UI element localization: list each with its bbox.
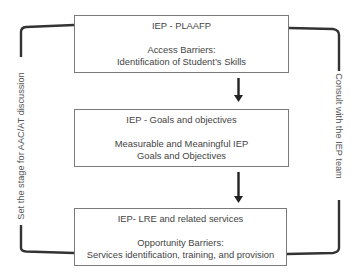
box-body: Access Barriers: Identification of Stude…: [75, 44, 288, 68]
box-title: IEP- LRE and related services: [75, 213, 286, 225]
box-body-line: Services identification, training, and p…: [75, 249, 286, 261]
right-bracket-bottom: [287, 200, 339, 254]
left-bracket-top: [21, 25, 74, 57]
box-body-line: Access Barriers:: [75, 44, 288, 56]
right-bracket-label: Consult with the IEP team: [334, 73, 344, 179]
lre-services-box: IEP- LRE and related services Opportunit…: [74, 208, 287, 266]
left-bracket-bottom: [21, 225, 74, 253]
box-body-line: Identification of Student’s Skills: [75, 56, 288, 68]
box-body: Measurable and Meaningful IEP Goals and …: [75, 138, 288, 162]
right-bracket-top: [289, 28, 339, 71]
goals-objectives-box: IEP - Goals and objectives Measurable an…: [74, 109, 289, 167]
down-arrow-icon: [234, 172, 243, 203]
box-body-line: Opportunity Barriers:: [75, 237, 286, 249]
box-body: Opportunity Barriers: Services identific…: [75, 237, 286, 261]
box-title: IEP - Goals and objectives: [75, 114, 288, 126]
plaafp-box: IEP - PLAAFP Access Barriers: Identifica…: [74, 15, 289, 73]
left-bracket-label: Set the stage for AAC/AT discussion: [16, 72, 26, 219]
box-body-line: Measurable and Meaningful IEP: [75, 138, 288, 150]
box-title: IEP - PLAAFP: [75, 20, 288, 32]
box-body-line: Goals and Objectives: [75, 150, 288, 162]
down-arrow-icon: [234, 78, 243, 102]
